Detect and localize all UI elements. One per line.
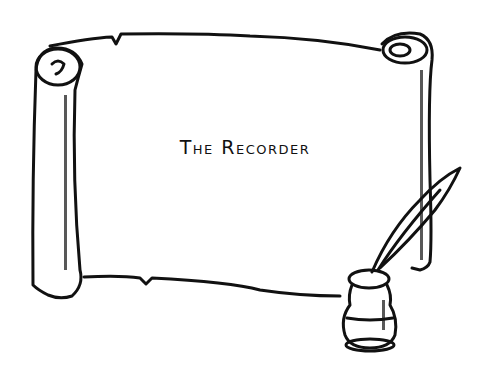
inkwell (343, 270, 395, 351)
shading (64, 70, 423, 330)
right-roll (382, 33, 432, 270)
left-roll-end (36, 49, 80, 85)
scroll-bottom-edge (84, 276, 340, 296)
scroll-top-edge (50, 34, 380, 50)
scroll-title: The Recorder (150, 136, 340, 158)
quill (372, 168, 460, 272)
scroll-illustration (0, 0, 490, 370)
